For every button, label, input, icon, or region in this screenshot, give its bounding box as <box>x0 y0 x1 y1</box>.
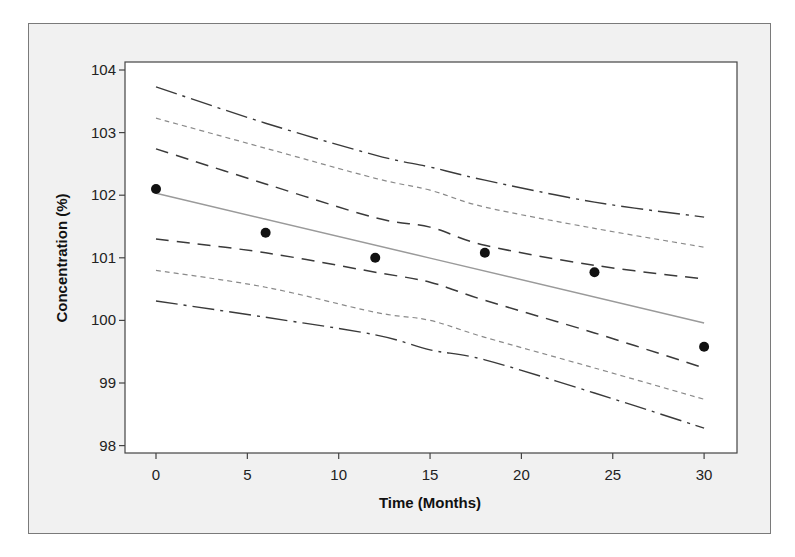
x-tick-label: 20 <box>513 466 530 483</box>
x-tick-label: 25 <box>604 466 621 483</box>
x-tick-label: 0 <box>152 466 160 483</box>
y-tick-label: 103 <box>91 124 116 141</box>
x-axis: 051015202530 <box>152 453 713 483</box>
y-axis: 9899100101102103104 <box>91 61 125 454</box>
x-axis-title: Time (Months) <box>379 494 481 511</box>
y-tick-label: 100 <box>91 311 116 328</box>
chart: 9899100101102103104 051015202530 Time (M… <box>0 0 795 557</box>
data-point <box>261 228 271 238</box>
x-tick-label: 5 <box>243 466 251 483</box>
y-tick-label: 102 <box>91 186 116 203</box>
plot-area <box>125 62 737 453</box>
data-point <box>480 248 490 258</box>
y-tick-label: 104 <box>91 61 116 78</box>
data-point <box>370 253 380 263</box>
y-tick-label: 99 <box>99 374 116 391</box>
x-tick-label: 10 <box>330 466 347 483</box>
data-point <box>151 184 161 194</box>
x-tick-label: 30 <box>696 466 713 483</box>
y-tick-label: 98 <box>99 437 116 454</box>
y-axis-title: Concentration (%) <box>53 193 70 322</box>
data-point <box>699 342 709 352</box>
data-point <box>589 267 599 277</box>
y-tick-label: 101 <box>91 249 116 266</box>
x-tick-label: 15 <box>422 466 439 483</box>
